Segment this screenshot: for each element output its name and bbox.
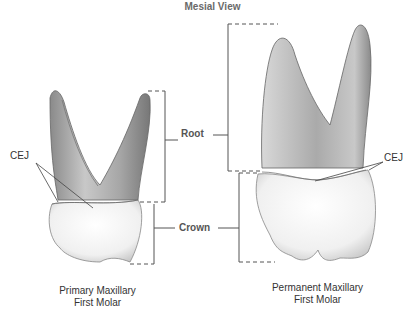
root-label: Root (181, 128, 204, 139)
caption-primary-line1: Primary Maxillary (40, 285, 155, 297)
permanent-root (262, 25, 371, 168)
primary-molar (49, 91, 150, 262)
cej-left-label: CEJ (10, 150, 29, 161)
caption-permanent-line1: Permanent Maxillary (255, 282, 380, 294)
caption-permanent: Permanent Maxillary First Molar (255, 282, 380, 306)
tooth-diagram (0, 0, 419, 311)
primary-crown (49, 200, 142, 262)
permanent-molar (256, 25, 375, 260)
caption-primary-line2: First Molar (40, 297, 155, 309)
caption-permanent-line2: First Molar (255, 294, 380, 306)
crown-label: Crown (179, 222, 210, 233)
primary-root (50, 91, 150, 200)
caption-primary: Primary Maxillary First Molar (40, 285, 155, 309)
permanent-crown (256, 170, 375, 260)
cej-right-label: CEJ (384, 152, 403, 163)
